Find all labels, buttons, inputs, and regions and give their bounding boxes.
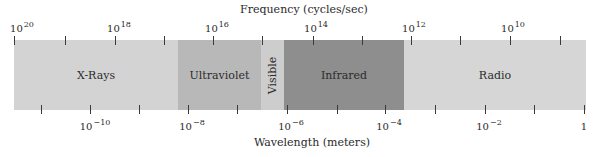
wavelength-tick-label: 10−6 (278, 122, 304, 132)
wavelength-tick (337, 105, 338, 114)
frequency-tick-label: 1010 (501, 24, 525, 34)
wavelength-tick-label: 10−2 (476, 122, 502, 132)
band-infrared: Infrared (284, 40, 404, 110)
frequency-tick-label: 1014 (304, 24, 328, 34)
wavelength-tick (237, 105, 238, 114)
wavelength-tick-label: 10−8 (179, 122, 205, 132)
frequency-tick (313, 36, 314, 45)
frequency-tick-label: 1018 (107, 24, 131, 34)
wavelength-tick (435, 105, 436, 114)
wavelength-tick (584, 105, 585, 114)
frequency-tick-label: 1016 (205, 24, 229, 34)
frequency-tick (411, 36, 412, 45)
wavelength-tick-label: 1 (581, 122, 587, 132)
wavelength-tick (385, 105, 386, 114)
frequency-axis-title: Frequency (cycles/sec) (240, 3, 368, 16)
wavelength-tick-label: 10−4 (376, 122, 402, 132)
frequency-tick (164, 36, 165, 45)
frequency-tick (213, 36, 214, 45)
spectrum-strip: X-RaysUltravioletVisibleInfraredRadio (14, 40, 586, 110)
frequency-tick (115, 36, 116, 45)
band-x-rays: X-Rays (14, 40, 178, 110)
band-visible: Visible (261, 40, 284, 110)
band-ultraviolet: Ultraviolet (178, 40, 261, 110)
wavelength-tick-label: 10−10 (80, 122, 111, 132)
wavelength-tick (139, 105, 140, 114)
wavelength-axis-title: Wavelength (meters) (254, 136, 370, 149)
frequency-tick (560, 36, 561, 45)
wavelength-tick (485, 105, 486, 114)
frequency-tick (460, 36, 461, 45)
band-label: Visible (266, 56, 279, 94)
frequency-tick (362, 36, 363, 45)
wavelength-tick (534, 105, 535, 114)
band-label: Ultraviolet (190, 69, 250, 82)
frequency-tick (65, 36, 66, 45)
wavelength-tick (90, 105, 91, 114)
band-label: X-Rays (77, 69, 115, 82)
frequency-tick-label: 1012 (402, 24, 426, 34)
band-radio: Radio (404, 40, 586, 110)
frequency-tick (14, 36, 15, 45)
frequency-tick (262, 36, 263, 45)
frequency-tick (510, 36, 511, 45)
wavelength-tick (188, 105, 189, 114)
frequency-tick-label: 1020 (10, 24, 34, 34)
wavelength-tick (287, 105, 288, 114)
wavelength-tick (41, 105, 42, 114)
band-label: Infrared (321, 69, 367, 82)
band-label: Radio (479, 69, 511, 82)
